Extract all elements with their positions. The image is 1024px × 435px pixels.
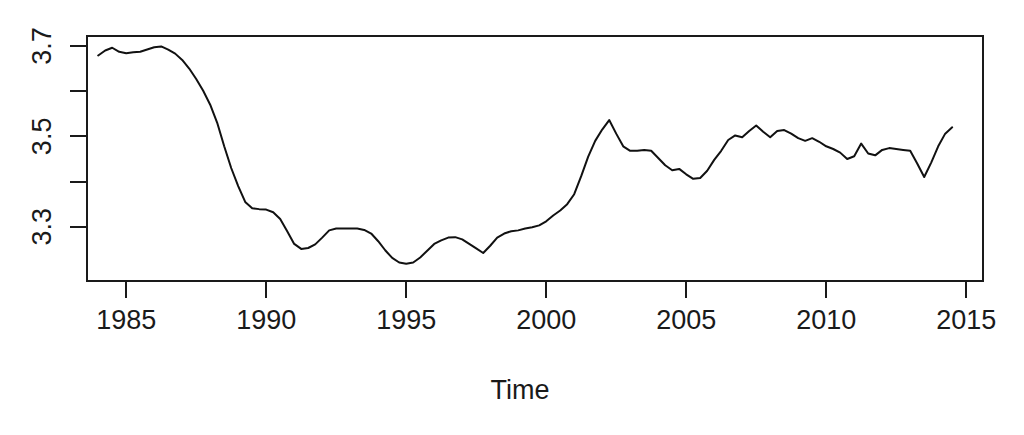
y-tick-label: 3.5: [27, 118, 57, 156]
y-axis-tick-labels: 3.33.53.7: [27, 27, 57, 245]
x-tick-label: 2000: [516, 305, 576, 335]
x-tick-label: 2005: [656, 305, 716, 335]
x-tick-label: 1995: [376, 305, 436, 335]
x-axis-tick-labels: 1985199019952000200520102015: [96, 305, 996, 335]
x-tick-label: 1990: [236, 305, 296, 335]
x-tick-label: 1985: [96, 305, 156, 335]
y-tick-label: 3.3: [27, 208, 57, 246]
x-axis-title: Time: [491, 375, 550, 405]
timeseries-plot: 3.33.53.7 1985199019952000200520102015 T…: [0, 0, 1024, 435]
y-axis-ticks: [70, 46, 87, 227]
x-tick-label: 2010: [796, 305, 856, 335]
data-series-line: [98, 46, 952, 263]
x-tick-label: 2015: [936, 305, 996, 335]
chart-page: 3.33.53.7 1985199019952000200520102015 T…: [0, 0, 1024, 435]
y-tick-label: 3.7: [27, 27, 57, 65]
x-axis-ticks: [126, 281, 966, 298]
